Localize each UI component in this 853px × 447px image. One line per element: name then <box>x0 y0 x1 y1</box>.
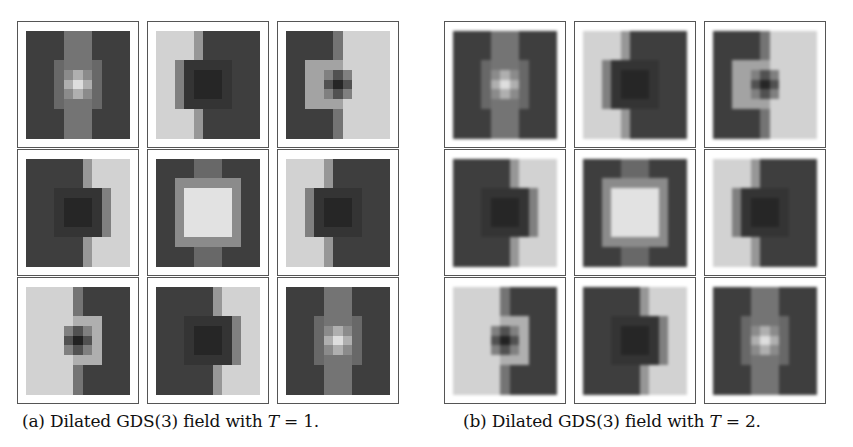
caption-b-text: (b) Dilated GDS(3) field with <box>463 411 709 431</box>
kernel-heatmap <box>713 287 817 395</box>
kernel-frame <box>147 149 269 276</box>
caption-a-var: T <box>268 411 279 431</box>
kernel-frame <box>17 21 139 148</box>
kernel-frame <box>17 149 139 276</box>
kernel-frame <box>704 21 826 148</box>
kernel-heatmap <box>286 31 390 139</box>
caption-a-text: (a) Dilated GDS(3) field with <box>22 411 268 431</box>
kernel-heatmap <box>156 287 260 395</box>
kernel-frame <box>444 149 566 276</box>
kernel-heatmap <box>713 31 817 139</box>
caption-a-suffix: = 1. <box>279 411 319 431</box>
kernel-frame <box>444 277 566 404</box>
kernel-frame <box>147 277 269 404</box>
kernel-heatmap <box>286 287 390 395</box>
kernel-heatmap <box>583 287 687 395</box>
kernel-frame <box>574 149 696 276</box>
kernel-frame <box>277 277 399 404</box>
kernel-heatmap <box>26 287 130 395</box>
kernel-heatmap <box>713 159 817 267</box>
kernel-frame <box>444 21 566 148</box>
panel-a <box>17 21 399 404</box>
kernel-heatmap <box>453 31 557 139</box>
caption-b-var: T <box>709 411 720 431</box>
kernel-heatmap <box>286 159 390 267</box>
kernel-heatmap <box>156 31 260 139</box>
kernel-frame <box>147 21 269 148</box>
caption-a: (a) Dilated GDS(3) field with T = 1. <box>22 411 319 431</box>
kernel-heatmap <box>583 31 687 139</box>
kernel-frame <box>704 149 826 276</box>
kernel-heatmap <box>453 159 557 267</box>
panel-b <box>444 21 826 404</box>
kernel-frame <box>574 277 696 404</box>
kernel-grid-b <box>444 21 826 404</box>
kernel-frame <box>277 149 399 276</box>
kernel-frame <box>574 21 696 148</box>
kernel-grid-a <box>17 21 399 404</box>
kernel-heatmap <box>583 159 687 267</box>
kernel-frame <box>704 277 826 404</box>
kernel-heatmap <box>156 159 260 267</box>
kernel-heatmap <box>453 287 557 395</box>
kernel-frame <box>277 21 399 148</box>
caption-b: (b) Dilated GDS(3) field with T = 2. <box>463 411 761 431</box>
caption-b-suffix: = 2. <box>721 411 761 431</box>
kernel-frame <box>17 277 139 404</box>
kernel-heatmap <box>26 31 130 139</box>
kernel-heatmap <box>26 159 130 267</box>
